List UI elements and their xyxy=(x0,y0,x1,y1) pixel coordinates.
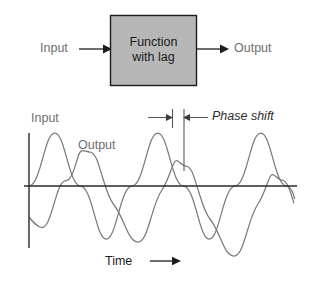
x-axis-label: Time xyxy=(105,254,132,268)
figure-root: Input Function with lag Output xyxy=(0,0,310,287)
figure-svg: Input Function with lag Output xyxy=(0,0,310,287)
plot-input-label: Input xyxy=(31,111,59,125)
phase-shift-right-arrow-icon xyxy=(183,114,208,121)
block-diagram: Input Function with lag Output xyxy=(40,16,272,86)
phase-shift-label: Phase shift xyxy=(212,109,274,123)
function-box-line1: Function xyxy=(130,35,178,49)
block-output-label: Output xyxy=(234,41,272,55)
phase-shift-left-arrow-icon xyxy=(148,114,173,121)
function-box-line2: with lag xyxy=(131,50,174,64)
plot-output-label: Output xyxy=(78,138,116,152)
block-output-arrow-icon xyxy=(197,45,229,54)
block-input-arrow-icon xyxy=(79,45,112,54)
block-input-label: Input xyxy=(40,41,68,55)
x-axis-arrow-icon xyxy=(150,257,181,265)
wave-plot: Input Output Phase shift Time xyxy=(24,109,297,268)
